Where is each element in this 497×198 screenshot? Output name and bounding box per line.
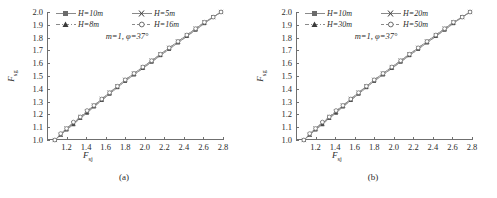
x-tick-label: 1.6 — [100, 143, 111, 152]
y-tick — [296, 12, 299, 13]
y-tick-label: 1.6 — [272, 59, 292, 68]
y-tick — [47, 76, 50, 77]
x-tick — [316, 137, 317, 140]
x-axis-title-sub: sj — [338, 155, 342, 162]
data-point-marker — [92, 104, 96, 108]
data-point-marker — [357, 91, 361, 95]
series-group-b — [296, 12, 472, 140]
y-tick — [296, 89, 299, 90]
data-point-marker — [123, 78, 127, 82]
x-tick — [335, 137, 336, 140]
y-tick — [296, 63, 299, 64]
x-tick — [374, 137, 375, 140]
y-tick — [47, 63, 50, 64]
data-point-marker — [150, 59, 154, 63]
data-point-marker — [381, 72, 385, 76]
x-tick — [184, 137, 185, 140]
x-axis-title: Fsj — [332, 150, 342, 162]
data-point-marker — [327, 115, 331, 119]
panel-caption: (b) — [368, 172, 379, 182]
x-tick — [452, 137, 453, 140]
y-tick-label: 1.4 — [272, 85, 292, 94]
y-tick-label: 1.8 — [23, 33, 43, 42]
y-tick-label: 1.5 — [272, 72, 292, 81]
x-tick — [472, 137, 473, 140]
y-axis-title-base: F — [6, 76, 16, 82]
y-tick-label: 1.7 — [23, 46, 43, 55]
x-tick — [223, 137, 224, 140]
data-point-marker — [176, 40, 180, 44]
data-point-marker — [416, 46, 420, 50]
x-tick — [67, 137, 68, 140]
data-point-marker — [59, 132, 63, 136]
y-tick — [47, 12, 50, 13]
x-tick — [86, 137, 87, 140]
x-tick — [203, 137, 204, 140]
y-axis-title-sub: sg — [11, 70, 18, 76]
data-point-marker — [203, 20, 207, 24]
data-point-marker — [302, 138, 306, 142]
x-tick — [145, 137, 146, 140]
y-tick-label: 1.8 — [272, 33, 292, 42]
data-point-marker — [116, 84, 120, 88]
x-tick — [433, 137, 434, 140]
x-tick-label: 1.6 — [349, 143, 360, 152]
data-point-marker — [72, 120, 76, 124]
data-point-marker — [314, 127, 318, 131]
y-tick-label: 1.7 — [272, 46, 292, 55]
data-point-marker — [399, 59, 403, 63]
y-axis-title-sub: sg — [260, 70, 267, 76]
y-tick — [47, 140, 50, 141]
x-tick-label: 2.6 — [447, 143, 458, 152]
data-point-marker — [53, 138, 57, 142]
x-tick — [164, 137, 165, 140]
data-point-marker — [443, 27, 447, 31]
chart-panel-b: H=10m H=20m H=30m — [249, 0, 497, 198]
y-tick-label: 1.2 — [23, 110, 43, 119]
x-tick — [106, 137, 107, 140]
data-point-marker — [308, 132, 312, 136]
y-axis-title: Fsg — [255, 70, 267, 81]
data-point-marker — [372, 78, 376, 82]
y-tick — [296, 50, 299, 51]
y-tick-label: 1.2 — [272, 110, 292, 119]
y-tick — [296, 140, 299, 141]
data-point-marker — [334, 109, 338, 113]
figure-container: H=10m H=5m H=8m — [0, 0, 497, 198]
x-tick-label: 2.4 — [179, 143, 190, 152]
data-point-marker — [219, 10, 223, 14]
data-point-marker — [167, 46, 171, 50]
data-point-marker — [434, 33, 438, 37]
data-point-marker — [78, 115, 82, 119]
data-point-marker — [468, 10, 472, 14]
y-tick — [47, 89, 50, 90]
y-tick-label: 2.0 — [272, 8, 292, 17]
y-tick-label: 1.6 — [23, 59, 43, 68]
y-axis-title-base: F — [255, 76, 265, 82]
x-axis-title-sub: sj — [89, 155, 93, 162]
y-tick — [47, 38, 50, 39]
x-axis-title: Fsj — [83, 150, 93, 162]
y-tick-label: 1.3 — [272, 97, 292, 106]
y-tick — [47, 102, 50, 103]
x-tick — [355, 137, 356, 140]
data-point-marker — [365, 84, 369, 88]
x-tick-label: 1.2 — [61, 143, 72, 152]
y-tick — [296, 25, 299, 26]
x-tick-label: 2.0 — [388, 143, 399, 152]
data-point-marker — [85, 109, 89, 113]
data-point-marker — [452, 20, 456, 24]
y-tick — [296, 38, 299, 39]
plot-area-a: 1.21.41.61.82.02.22.42.62.81.01.11.21.31… — [47, 12, 223, 140]
x-tick-label: 2.2 — [408, 143, 419, 152]
x-tick-label: 2.8 — [467, 143, 478, 152]
y-tick — [296, 114, 299, 115]
y-tick — [296, 102, 299, 103]
y-tick — [47, 50, 50, 51]
y-tick-label: 1.3 — [23, 97, 43, 106]
chart-panel-a: H=10m H=5m H=8m — [0, 0, 248, 198]
data-point-marker — [65, 127, 69, 131]
data-point-marker — [159, 52, 163, 56]
y-axis-title: Fsg — [6, 70, 18, 81]
data-point-marker — [341, 104, 345, 108]
